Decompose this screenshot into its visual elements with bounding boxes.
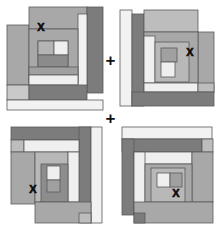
- piece-lower-dark-strip: [29, 85, 87, 100]
- piece-bottom-field: [134, 202, 213, 223]
- piece-core-light: [38, 41, 54, 55]
- piece-upper-left-light: [11, 140, 24, 152]
- piece-core-white: [47, 166, 60, 180]
- piece-core-white: [161, 62, 175, 77]
- x-mark-bottom-left: X: [29, 183, 37, 195]
- piece-bottom-right-light: [198, 83, 214, 92]
- plus-operator-top: +: [102, 52, 119, 69]
- piece-inner-white-right: [68, 152, 79, 202]
- piece-outer-right-light: [202, 139, 213, 152]
- piece-outer-top-white: [122, 127, 212, 139]
- piece-outer-right-white: [78, 14, 87, 86]
- quilt-block-diagram: X X: [0, 0, 221, 235]
- piece-field-left: [11, 152, 35, 204]
- x-mark-top-right: X: [186, 46, 194, 58]
- piece-core-dark: [38, 55, 68, 67]
- piece-outer-left-strip: [7, 25, 29, 85]
- block-top-right-svg: X: [111, 0, 221, 117]
- plus-operator-middle: +: [102, 110, 119, 127]
- piece-inner-right-field: [192, 152, 213, 202]
- piece-upper-white-band: [24, 140, 79, 152]
- block-top-right[interactable]: X: [111, 0, 221, 117]
- block-bottom-right-svg: X: [111, 118, 221, 235]
- piece-inner-white-left: [144, 36, 155, 83]
- block-bottom-left[interactable]: X: [0, 118, 110, 235]
- piece-outer-left-dark: [122, 139, 134, 215]
- piece-lower-left-light: [7, 85, 29, 100]
- piece-inner-lower: [29, 67, 78, 75]
- piece-core-medium: [170, 173, 182, 187]
- piece-outer-top-light: [144, 10, 198, 32]
- block-bottom-right[interactable]: X: [111, 118, 221, 235]
- block-top-left-svg: X: [0, 0, 110, 117]
- piece-core-medium: [161, 48, 177, 62]
- piece-outer-left-white: [120, 10, 132, 106]
- piece-bottom-right-light: [79, 213, 91, 223]
- x-mark-bottom-right: X: [172, 187, 180, 199]
- x-mark-top-left: X: [37, 21, 45, 33]
- piece-bottom-white-band: [144, 83, 198, 92]
- block-top-left[interactable]: X: [0, 0, 110, 117]
- piece-bottom-left-dark: [134, 213, 145, 223]
- piece-inner-white-band: [29, 75, 78, 85]
- piece-outer-bottom-dark: [132, 92, 214, 106]
- block-bottom-left-svg: X: [0, 118, 110, 235]
- piece-outer-right-dark: [87, 7, 103, 93]
- piece-core-medium: [47, 180, 60, 192]
- piece-core-white: [54, 41, 68, 55]
- piece-core-white: [157, 173, 170, 187]
- piece-bottom-white-strip: [7, 100, 103, 110]
- piece-outer-right-white: [91, 127, 102, 223]
